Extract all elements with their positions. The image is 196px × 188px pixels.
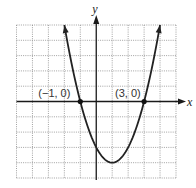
x-axis-label: x xyxy=(186,95,193,109)
x-axis-arrow-icon xyxy=(178,99,186,105)
root-point-right xyxy=(142,99,147,104)
root-label-left: (−1, 0) xyxy=(38,87,70,99)
root-label-right: (3, 0) xyxy=(115,87,141,99)
y-axis-label: y xyxy=(91,2,98,16)
parabola-chart: x y (−1, 0) (3, 0) xyxy=(0,0,196,188)
root-point-left xyxy=(78,99,83,104)
y-axis-arrow-icon xyxy=(93,15,99,24)
